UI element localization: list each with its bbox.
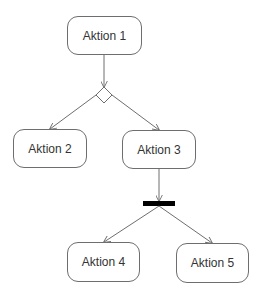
action-node-3: Aktion 3 — [122, 130, 196, 169]
action-node-5: Aktion 5 — [176, 243, 249, 283]
action-node-2: Aktion 2 — [13, 129, 87, 168]
edge-fork-a4 — [104, 206, 159, 242]
fork-bar — [143, 201, 175, 206]
action-label: Aktion 3 — [137, 143, 180, 157]
edge-decision-a2 — [50, 95, 96, 129]
action-node-1: Aktion 1 — [67, 16, 142, 55]
action-node-4: Aktion 4 — [67, 242, 140, 282]
decision-node — [96, 87, 112, 103]
edge-decision-a3 — [112, 95, 159, 130]
action-label: Aktion 5 — [191, 256, 234, 270]
action-label: Aktion 4 — [82, 255, 125, 269]
action-label: Aktion 2 — [28, 142, 71, 156]
action-label: Aktion 1 — [83, 29, 126, 43]
edge-fork-a5 — [159, 206, 212, 243]
